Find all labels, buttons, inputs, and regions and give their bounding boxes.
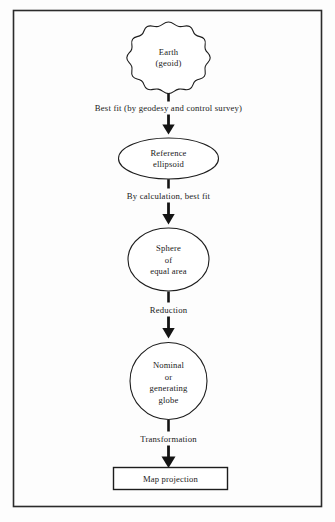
edge-ellipsoid-to-sphere: By calculation, best fit [127,179,211,224]
edge-sphere-to-globe: Reduction [150,292,188,339]
arrow-head-icon-globe [162,457,176,469]
flowchart-canvas: Earth (geoid) Best fit (by geodesy and c… [0,0,335,522]
arrow-head-icon-geoid [162,125,174,135]
edge-label-reduction: Reduction [150,305,188,315]
node-label-or: or [165,372,172,382]
node-label-earth: Earth [159,47,179,57]
arrow-head-icon-ellipsoid [162,214,174,225]
node-label-of: of [165,255,172,265]
node-label-generating: generating [150,383,188,393]
node-reference-ellipsoid: Reference ellipsoid [119,138,219,179]
node-map-projection: Map projection [114,468,228,490]
node-label-equal-area: equal area [150,266,187,276]
edge-label-by-calculation: By calculation, best fit [127,191,211,201]
node-label-sphere: Sphere [156,243,181,253]
node-label-geoid: (geoid) [156,58,182,68]
node-label-ellipsoid: ellipsoid [153,159,185,169]
arrow-head-icon-sphere [162,328,174,339]
node-nominal-generating-globe: Nominal or generating globe [130,343,207,420]
node-label-nominal: Nominal [153,360,185,370]
node-earth-geoid: Earth (geoid) [127,22,210,94]
edge-geoid-to-ellipsoid: Best fit (by geodesy and control survey) [95,94,242,135]
node-label-globe: globe [159,395,179,405]
node-label-map-projection: Map projection [143,474,198,484]
edge-label-transformation: Transformation [140,434,197,444]
edge-label-best-fit-geodesy: Best fit (by geodesy and control survey) [95,103,242,113]
flowchart-figure: Earth (geoid) Best fit (by geodesy and c… [0,0,335,522]
node-label-reference: Reference [150,148,186,158]
edge-globe-to-projection: Transformation [140,420,197,468]
node-sphere-equal-area: Sphere of equal area [128,228,209,291]
